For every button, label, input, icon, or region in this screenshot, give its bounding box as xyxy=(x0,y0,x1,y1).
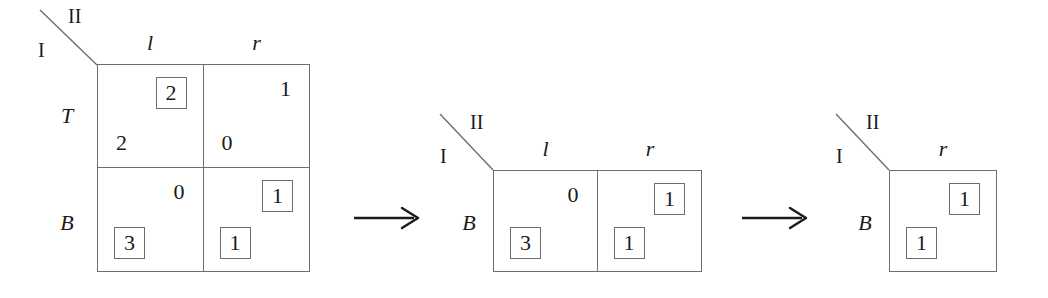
cell-T-l: 2 2 xyxy=(98,65,204,168)
column-header-r-stage-3: r xyxy=(889,138,997,160)
cell-B-r-column-payoff-value-stage-2: 1 xyxy=(654,183,685,215)
cell-B-r: 1 1 xyxy=(204,168,310,271)
cell-T-r: 1 0 xyxy=(204,65,310,168)
cell-T-l-column-payoff: 2 xyxy=(156,77,187,109)
cell-T-l-row-payoff-value: 2 xyxy=(114,131,129,155)
cell-B-r-stage-3: 1 1 xyxy=(890,171,996,271)
cell-B-r-row-payoff-value-stage-3: 1 xyxy=(906,227,937,259)
payoff-matrix-stage-3: 1 1 xyxy=(889,170,997,272)
player-one-label-stage-2: I xyxy=(440,146,447,166)
cell-B-r-column-payoff-value: 1 xyxy=(262,180,293,212)
iterated-elimination-figure: II I l r T B 2 2 1 xyxy=(0,0,1048,298)
row-header-B-stage-3: B xyxy=(848,212,882,234)
cell-B-l-row-payoff-stage-2: 3 xyxy=(510,227,541,259)
cell-T-l-column-payoff-value: 2 xyxy=(156,77,187,109)
cell-B-r-stage-2: 1 1 xyxy=(598,171,702,271)
cell-B-l-column-payoff-value-stage-2: 0 xyxy=(566,183,581,207)
row-header-B: B xyxy=(50,212,84,234)
cell-B-l-column-payoff-value: 0 xyxy=(172,180,187,204)
column-header-r-stage-2: r xyxy=(598,138,702,160)
cell-T-r-row-payoff-value: 0 xyxy=(220,131,235,155)
cell-T-r-column-payoff: 1 xyxy=(278,77,293,101)
player-two-label-stage-2: II xyxy=(470,112,483,132)
stage-3-matrix-group: II I r B 1 1 xyxy=(830,0,1048,290)
cell-B-l-row-payoff-value: 3 xyxy=(114,227,145,259)
row-header-T: T xyxy=(50,105,84,127)
cell-T-r-column-payoff-value: 1 xyxy=(278,77,293,101)
player-one-label-stage-3: I xyxy=(836,146,843,166)
corner-diagonal-stage-2 xyxy=(440,114,496,170)
corner-diagonal-stage-3 xyxy=(836,114,892,170)
cell-B-r-row-payoff: 1 xyxy=(220,227,251,259)
cell-B-l-stage-2: 0 3 xyxy=(494,171,598,271)
payoff-matrix-stage-1: 2 2 1 0 0 xyxy=(97,64,310,272)
cell-B-r-column-payoff-value-stage-3: 1 xyxy=(949,183,980,215)
cell-T-l-row-payoff: 2 xyxy=(114,131,129,155)
player-two-label-stage-3: II xyxy=(866,112,879,132)
payoff-matrix-stage-2: 0 3 1 1 xyxy=(493,170,702,272)
cell-B-r-column-payoff-stage-2: 1 xyxy=(654,183,685,215)
cell-B-r-row-payoff-value-stage-2: 1 xyxy=(614,227,645,259)
stage-2-matrix-group: II I l r B 0 3 1 xyxy=(440,0,715,290)
cell-B-r-column-payoff: 1 xyxy=(262,180,293,212)
cell-B-l-row-payoff-value-stage-2: 3 xyxy=(510,227,541,259)
cell-B-l-row-payoff: 3 xyxy=(114,227,145,259)
cell-B-l: 0 3 xyxy=(98,168,204,271)
arrow-stage-1-to-2 xyxy=(352,205,424,231)
player-one-label: I xyxy=(38,40,45,60)
cell-B-r-column-payoff-stage-3: 1 xyxy=(949,183,980,215)
cell-B-r-row-payoff-value: 1 xyxy=(220,227,251,259)
column-header-l-stage-2: l xyxy=(493,138,598,160)
cell-B-l-column-payoff: 0 xyxy=(172,180,187,204)
arrow-stage-2-to-3 xyxy=(740,205,812,231)
row-header-B-stage-2: B xyxy=(452,212,486,234)
cell-B-l-column-payoff-stage-2: 0 xyxy=(566,183,581,207)
player-two-label: II xyxy=(68,6,81,26)
stage-1-matrix-group: II I l r T B 2 2 1 xyxy=(0,0,330,290)
cell-T-r-row-payoff: 0 xyxy=(220,131,235,155)
cell-B-r-row-payoff-stage-2: 1 xyxy=(614,227,645,259)
cell-B-r-row-payoff-stage-3: 1 xyxy=(906,227,937,259)
column-header-l: l xyxy=(97,32,203,54)
column-header-r: r xyxy=(203,32,310,54)
